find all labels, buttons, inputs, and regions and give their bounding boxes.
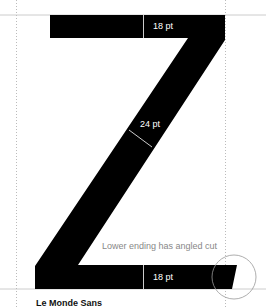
- angled-cut-note: Lower ending has angled cut: [102, 241, 217, 251]
- bottom-bar-label: 18 pt: [153, 272, 173, 282]
- top-bar-label: 18 pt: [153, 21, 173, 31]
- z-glyph-diagram: [0, 0, 266, 307]
- diagonal-label: 24 pt: [140, 119, 160, 129]
- typeface-caption: Le Monde Sans: [36, 298, 102, 307]
